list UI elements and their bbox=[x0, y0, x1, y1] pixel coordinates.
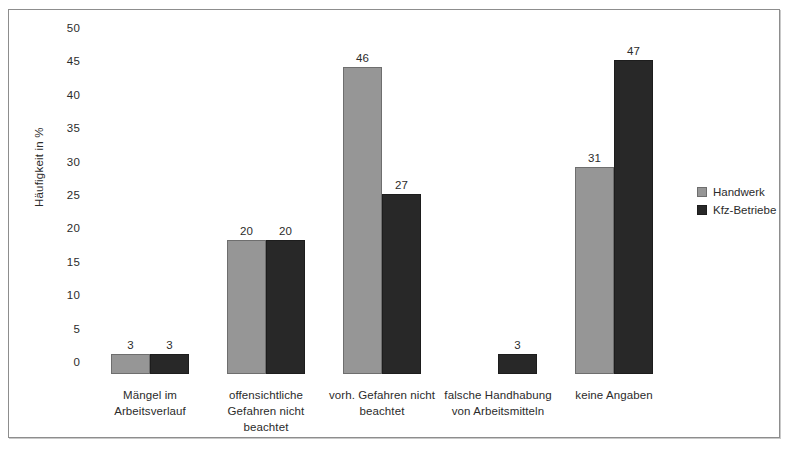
y-axis-tick-label: 0 bbox=[73, 356, 80, 368]
bar-group: 3falsche Handhabungvon Arbeitsmitteln bbox=[459, 40, 537, 374]
y-axis-tick-label: 5 bbox=[73, 323, 80, 335]
x-axis-category-label: keine Angaben bbox=[539, 387, 689, 403]
bar-handwerk: 46 bbox=[343, 67, 382, 374]
bar-pair: 4627 bbox=[343, 40, 421, 374]
bar-value-label: 20 bbox=[240, 225, 253, 237]
bar-value-label: 3 bbox=[514, 339, 520, 351]
bar-value-label: 31 bbox=[588, 152, 601, 164]
bar-group: 33Mängel imArbeitsverlauf bbox=[111, 40, 189, 374]
bar-kfz-betriebe: 47 bbox=[614, 60, 653, 374]
bar-value-label: 3 bbox=[166, 339, 172, 351]
legend-item-label: Handwerk bbox=[713, 186, 765, 198]
bar-pair: 33 bbox=[111, 40, 189, 374]
chart-legend: HandwerkKfz-Betriebe bbox=[697, 183, 776, 219]
bar-value-label: 27 bbox=[395, 179, 408, 191]
y-axis-title: Häufigkeit in % bbox=[33, 127, 45, 207]
legend-item: Handwerk bbox=[697, 183, 776, 201]
legend-swatch-icon bbox=[697, 205, 707, 215]
bar-handwerk: 31 bbox=[575, 167, 614, 374]
bar-group: 4627vorh. Gefahren nichtbeachtet bbox=[343, 40, 421, 374]
bar-kfz-betriebe: 20 bbox=[266, 240, 305, 374]
bar-pair: 3 bbox=[459, 40, 537, 374]
y-axis-tick-label: 20 bbox=[67, 222, 80, 234]
legend-swatch-icon bbox=[697, 187, 707, 197]
y-axis-tick-label: 35 bbox=[67, 122, 80, 134]
bar-kfz-betriebe: 27 bbox=[382, 194, 421, 374]
chart-frame: Häufigkeit in % 50454035302520151050 33M… bbox=[8, 9, 780, 438]
bar-group: 2020offensichtlicheGefahren nichtbeachte… bbox=[227, 40, 305, 374]
bar-kfz-betriebe: 3 bbox=[150, 354, 189, 374]
legend-item: Kfz-Betriebe bbox=[697, 201, 776, 219]
legend-item-label: Kfz-Betriebe bbox=[713, 204, 776, 216]
bar-value-label: 20 bbox=[279, 225, 292, 237]
bar-handwerk: 3 bbox=[111, 354, 150, 374]
y-axis-tick-label: 30 bbox=[67, 156, 80, 168]
bar-pair: 2020 bbox=[227, 40, 305, 374]
y-axis-tick-label: 25 bbox=[67, 189, 80, 201]
y-axis-tick-label: 50 bbox=[67, 22, 80, 34]
bar-group: 3147keine Angaben bbox=[575, 40, 653, 374]
y-axis-tick-label: 10 bbox=[67, 289, 80, 301]
bar-value-label: 46 bbox=[356, 52, 369, 64]
bar-kfz-betriebe: 3 bbox=[498, 354, 537, 374]
bar-value-label: 47 bbox=[627, 45, 640, 57]
bar-value-label: 3 bbox=[127, 339, 133, 351]
y-axis-tick-label: 15 bbox=[67, 256, 80, 268]
bar-pair: 3147 bbox=[575, 40, 653, 374]
bar-handwerk: 20 bbox=[227, 240, 266, 374]
y-axis-tick-label: 40 bbox=[67, 89, 80, 101]
y-axis-tick-label: 45 bbox=[67, 55, 80, 67]
plot-area: 50454035302520151050 33Mängel imArbeitsv… bbox=[92, 40, 672, 374]
